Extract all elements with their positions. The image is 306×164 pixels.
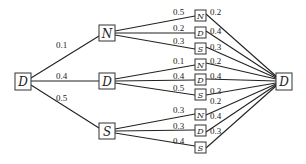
prob-to-final-8: 0.4 [210, 111, 222, 121]
middle-node-label: D [101, 75, 112, 89]
prob-to-final-6: 0.3 [210, 86, 222, 96]
leaf-nodes: N D S N D S N D [195, 10, 206, 153]
middle-node-S: S [99, 123, 115, 139]
prob-to-final-1: 0.2 [210, 7, 221, 17]
leaf-N-S: S [195, 43, 206, 54]
leaf-label: N [196, 61, 205, 70]
prob-to-final-5: 0.4 [210, 71, 222, 81]
prob-N-S: 0.3 [173, 36, 185, 46]
leaf-label: S [198, 45, 204, 54]
edge-root-to-S [31, 85, 99, 128]
prob-D-N: 0.1 [173, 56, 184, 66]
leaf-label: N [196, 111, 205, 120]
leaf-label: S [198, 144, 204, 153]
final-node-label: D [278, 75, 289, 89]
leaf-S-D: D [195, 125, 206, 136]
middle-node-N: N [99, 25, 115, 41]
root-node: D [15, 73, 31, 90]
prob-S-S: 0.4 [173, 136, 185, 146]
leaf-D-D: D [195, 74, 206, 85]
leaf-D-S: S [195, 89, 206, 100]
prob-root-S: 0.5 [56, 93, 68, 103]
prob-root-N: 0.1 [56, 40, 67, 50]
leaf-N-D: D [195, 27, 206, 38]
prob-S-D: 0.3 [173, 121, 185, 131]
leaf-D-N: N [195, 59, 206, 70]
leaf-label: D [196, 29, 204, 38]
leaf-N-N: N [195, 10, 206, 21]
final-node: D [276, 73, 292, 90]
leaf-S-S: S [195, 142, 206, 153]
prob-to-final-2: 0.4 [210, 26, 222, 36]
middle-node-D: D [99, 73, 115, 89]
root-node-label: D [17, 75, 28, 89]
prob-to-final-4: 0.2 [210, 56, 221, 66]
prob-to-final-3: 0.3 [210, 42, 222, 52]
middle-node-label: S [103, 125, 111, 139]
prob-to-final-9: 0.3 [210, 126, 222, 136]
middle-node-label: N [101, 27, 113, 41]
final-probabilities: 0.2 0.4 0.3 0.2 0.4 0.3 0.2 0.4 0.3 [210, 7, 222, 136]
prob-root-D: 0.4 [56, 71, 68, 81]
leaf-S-N: N [195, 109, 206, 120]
prob-N-N: 0.5 [173, 7, 185, 17]
leaf-label: D [196, 76, 204, 85]
prob-to-final-7: 0.2 [210, 96, 221, 106]
leaf-label: S [198, 91, 204, 100]
prob-N-D: 0.2 [173, 23, 184, 33]
leaf-probabilities: 0.5 0.2 0.3 0.1 0.4 0.5 0.3 0.3 0.4 [173, 7, 185, 146]
leaf-label: D [196, 127, 204, 136]
prob-S-N: 0.3 [173, 105, 185, 115]
probability-tree-diagram: D N D S 0.1 0.4 0.5 N D S N [0, 0, 306, 164]
prob-D-D: 0.4 [173, 71, 185, 81]
prob-D-S: 0.5 [173, 83, 185, 93]
leaf-label: N [196, 12, 205, 21]
